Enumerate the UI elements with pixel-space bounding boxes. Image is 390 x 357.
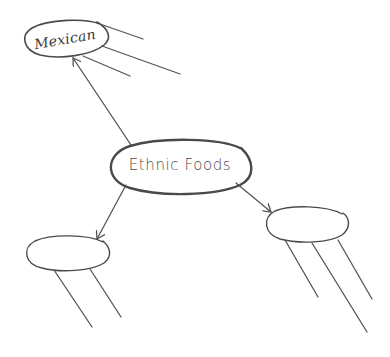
- edge-center-to-mexican: [73, 58, 131, 145]
- node-label-ethnic-foods: Ethnic Foods: [129, 156, 232, 174]
- node-bottom-left[interactable]: [27, 236, 110, 271]
- bottom-right-branch-lines: [285, 240, 372, 332]
- mind-map-drawing: [0, 0, 390, 357]
- node-bottom-right[interactable]: [266, 207, 348, 242]
- bottom-left-branch-lines: [54, 269, 121, 327]
- edge-center-to-bottom-right: [236, 183, 271, 212]
- mind-map-canvas: Mexican Ethnic Foods: [0, 0, 390, 357]
- edge-center-to-bottom-left: [97, 185, 126, 239]
